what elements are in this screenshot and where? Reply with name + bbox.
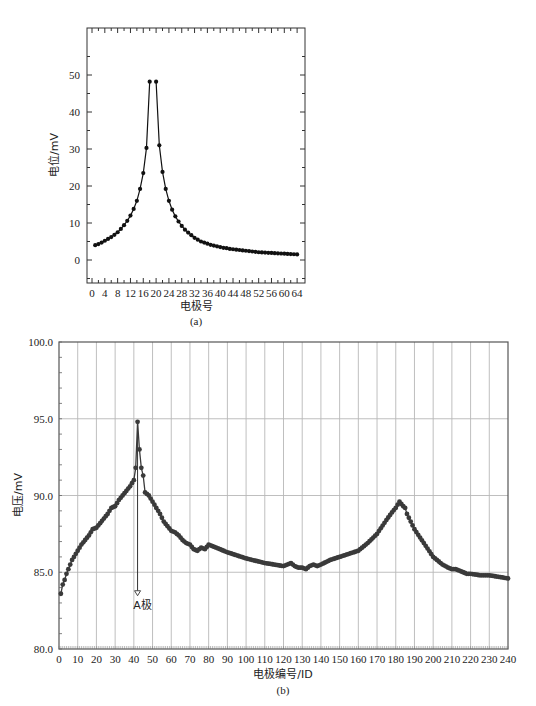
chart-b-data-point	[137, 447, 142, 452]
chart-a-series	[93, 80, 299, 257]
chart-b-x-tick-label: 80	[203, 653, 215, 665]
chart-a-y-tick-label: 30	[69, 143, 81, 155]
chart-b-x-tick-label: 100	[238, 653, 255, 665]
chart-b-data-point	[58, 591, 63, 596]
chart-b-x-tick-label: 150	[331, 653, 348, 665]
chart-b-data-point	[139, 465, 144, 470]
chart-a-x-tick-label: 28	[176, 287, 188, 299]
chart-a-x-tick-label: 60	[279, 287, 291, 299]
chart-a-x-tick-label: 12	[125, 287, 136, 299]
chart-b-x-tick-label: 70	[184, 653, 196, 665]
chart-a-x-tick-label: 64	[292, 287, 304, 299]
chart-b-x-tick-label: 10	[72, 653, 84, 665]
chart-b-y-tick-label: 80.0	[34, 643, 54, 655]
chart-b-y-axis-title: 电压/mV	[12, 473, 25, 517]
chart-a-y-tick-label: 50	[69, 69, 81, 81]
chart-a-x-tick-label: 48	[240, 287, 252, 299]
chart-b-x-tick-label: 30	[110, 653, 122, 665]
chart-b-x-tick-label: 110	[257, 653, 274, 665]
chart-b-data-point	[133, 465, 138, 470]
chart-b-x-tick-label: 0	[56, 653, 62, 665]
chart-a-x-axis-title: 电极号	[180, 299, 213, 313]
chart-b: 80.085.090.095.0100.0 010203040506070809…	[12, 336, 517, 697]
chart-a-data-point	[144, 146, 148, 150]
annotation-label: A极	[133, 598, 152, 612]
chart-b-data-point	[66, 567, 71, 572]
chart-a-y-tick-label: 10	[69, 217, 81, 229]
chart-a-x-tick-label: 52	[253, 287, 264, 299]
chart-a-y-tick-label: 20	[69, 180, 81, 192]
chart-a-plot-frame	[87, 28, 305, 283]
chart-b-x-tick-label: 210	[444, 653, 461, 665]
chart-a-x-tick-label: 36	[202, 287, 214, 299]
chart-a-data-point	[132, 207, 136, 211]
chart-b-y-axis: 80.085.090.095.0100.0	[28, 336, 62, 655]
chart-b-x-tick-label: 130	[294, 653, 311, 665]
chart-b-grid	[59, 342, 508, 649]
chart-a-x-tick-label: 32	[189, 287, 200, 299]
chart-a-x-tick-label: 56	[266, 287, 278, 299]
chart-b-y-tick-label: 95.0	[34, 413, 54, 425]
chart-a-line	[95, 82, 149, 246]
chart-b-y-tick-label: 100.0	[28, 336, 53, 348]
chart-a-data-point	[138, 187, 142, 191]
chart-b-series	[58, 419, 510, 596]
chart-a-x-tick-label: 8	[115, 287, 121, 299]
chart-a-data-point	[183, 228, 187, 232]
chart-b-x-tick-label: 120	[275, 653, 292, 665]
chart-a-data-point	[295, 252, 299, 256]
chart-b-x-tick-label: 230	[481, 653, 498, 665]
chart-a-data-point	[141, 171, 145, 175]
chart-b-caption: (b)	[277, 684, 290, 697]
chart-b-data-point	[403, 505, 408, 510]
chart-a-y-axis-title: 电位/mV	[47, 133, 61, 177]
chart-a-data-point	[170, 208, 174, 212]
chart-b-x-tick-label: 190	[406, 653, 423, 665]
chart-a-x-axis: 0481216202428323640444852566064	[89, 28, 303, 299]
chart-b-data-point	[62, 578, 67, 583]
chart-a-y-tick-label: 40	[69, 106, 81, 118]
chart-a-x-tick-label: 44	[228, 287, 240, 299]
chart-a-data-point	[157, 143, 161, 147]
chart-a-data-point	[128, 214, 132, 218]
chart-b-x-tick-label: 140	[313, 653, 330, 665]
chart-a-data-point	[119, 227, 123, 231]
chart-a-data-point	[180, 224, 184, 228]
chart-a-y-tick-label: 0	[75, 254, 81, 266]
chart-b-x-tick-label: 240	[500, 653, 517, 665]
chart-b-data-point	[60, 582, 65, 587]
chart-a-data-point	[116, 230, 120, 234]
chart-b-x-tick-label: 220	[462, 653, 479, 665]
chart-b-x-tick-label: 90	[222, 653, 234, 665]
chart-b-data-point	[141, 473, 146, 478]
chart-b-data-point	[135, 419, 140, 424]
chart-a-data-point	[176, 219, 180, 223]
figure: 01020304050 0481216202428323640444852566…	[0, 0, 536, 706]
chart-a-data-point	[160, 170, 164, 174]
chart-a-data-point	[173, 214, 177, 218]
chart-b-x-tick-label: 200	[425, 653, 442, 665]
chart-a-x-tick-label: 20	[151, 287, 163, 299]
chart-b-y-tick-label: 90.0	[34, 490, 54, 502]
chart-a-data-point	[167, 199, 171, 203]
chart-a-data-point	[148, 80, 152, 84]
chart-a-x-tick-label: 24	[163, 287, 175, 299]
chart-b-y-tick-label: 85.0	[34, 566, 54, 578]
chart-a-data-point	[164, 187, 168, 191]
chart-b-x-tick-label: 60	[166, 653, 178, 665]
chart-a-data-point	[154, 80, 158, 84]
chart-b-x-tick-label: 170	[369, 653, 386, 665]
chart-a-y-axis: 01020304050	[69, 57, 305, 279]
chart-b-x-axis-title: 电极编号/ID	[253, 667, 312, 681]
chart-b-data-point	[506, 576, 511, 581]
chart-b-x-tick-label: 40	[128, 653, 140, 665]
chart-a-data-point	[135, 199, 139, 203]
chart-b-x-tick-label: 20	[91, 653, 103, 665]
chart-a-line	[156, 82, 297, 255]
chart-b-data-point	[68, 562, 73, 567]
chart-b-data-point	[64, 571, 69, 576]
chart-b-x-tick-label: 180	[388, 653, 405, 665]
chart-b-data-point	[131, 478, 136, 483]
chart-a-data-point	[125, 219, 129, 223]
chart-a-data-point	[122, 223, 126, 227]
